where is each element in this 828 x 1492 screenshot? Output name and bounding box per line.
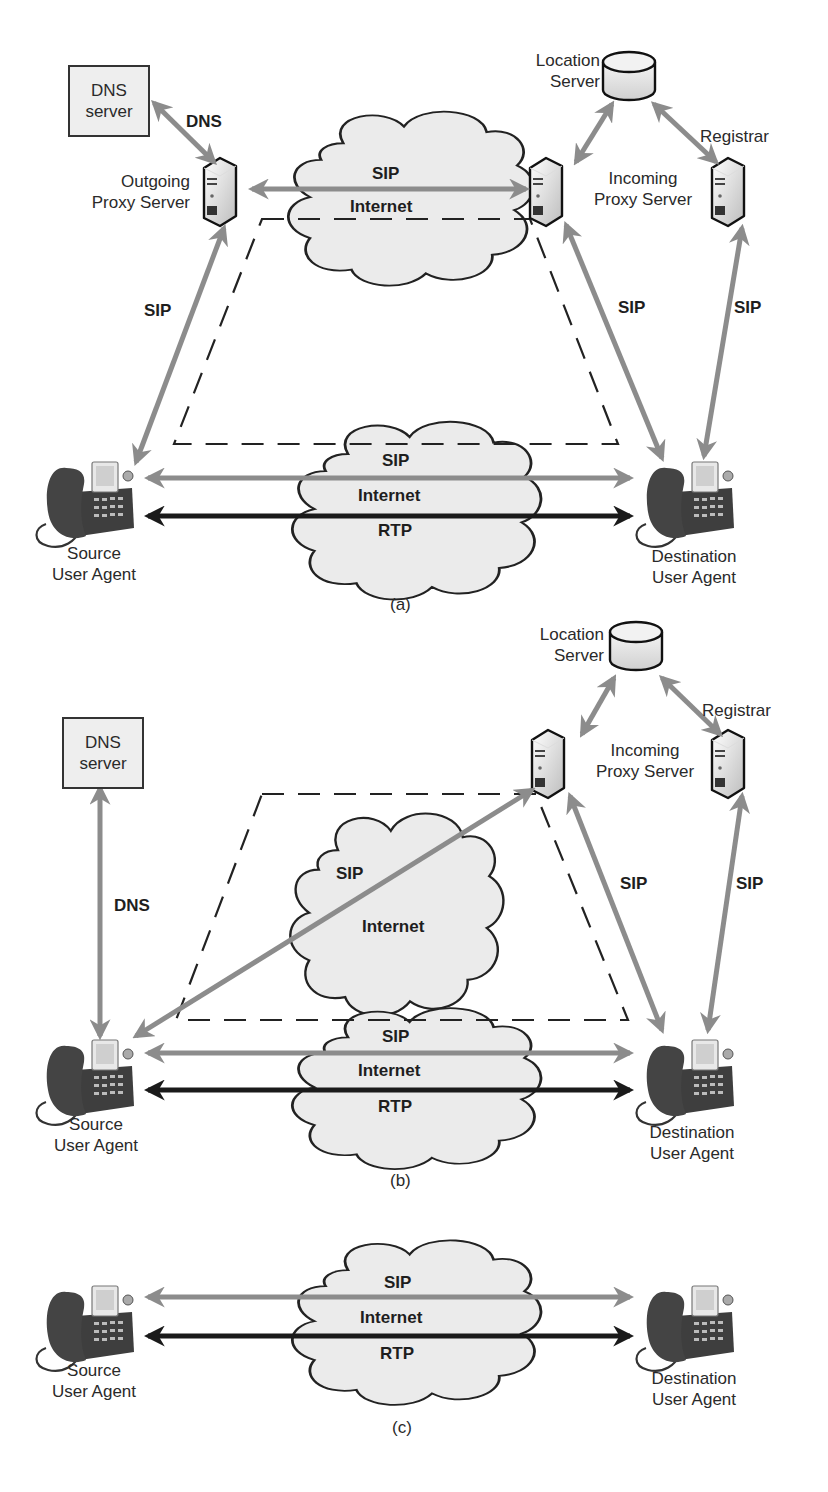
- cloud-sip-label: SIP: [384, 1272, 411, 1293]
- cloud-rtp-label: RTP: [380, 1343, 414, 1364]
- location-server-label: Location Server: [496, 50, 600, 92]
- destination-user-agent-label: Destination User Agent: [630, 1122, 754, 1164]
- bottom-cloud-rtp-label: RTP: [378, 1096, 412, 1117]
- source-user-agent-label: Source User Agent: [38, 1360, 150, 1402]
- bottom-cloud-sip-label: SIP: [382, 1026, 409, 1047]
- bottom-cloud-sip-label: SIP: [382, 450, 409, 471]
- bottom-cloud-rtp-label: RTP: [378, 520, 412, 541]
- caption-c: (c): [392, 1417, 412, 1438]
- destination-user-agent-label: Destination User Agent: [632, 546, 756, 588]
- mid-right-sip-link-label: SIP: [618, 297, 645, 318]
- source-user-agent-label: Source User Agent: [40, 1114, 152, 1156]
- registrar-label: Registrar: [702, 700, 771, 721]
- far-right-sip-link-label: SIP: [736, 873, 763, 894]
- mid-right-sip-link-label: SIP: [620, 873, 647, 894]
- outgoing-proxy-label: Outgoing Proxy Server: [64, 171, 190, 213]
- middle-cloud-internet-label: Internet: [362, 916, 424, 937]
- top-cloud-internet-label: Internet: [350, 196, 412, 217]
- dns-link-label: DNS: [114, 895, 150, 916]
- left-sip-link-label: SIP: [144, 300, 171, 321]
- bottom-cloud-internet-label: Internet: [358, 485, 420, 506]
- incoming-proxy-label: Incoming Proxy Server: [582, 740, 708, 782]
- dns-server-box: DNS server: [68, 65, 150, 137]
- middle-cloud-sip-label: SIP: [336, 863, 363, 884]
- dns-link-label: DNS: [186, 111, 222, 132]
- dns-server-box: DNS server: [62, 717, 144, 789]
- cloud-internet-label: Internet: [360, 1307, 422, 1328]
- caption-a: (a): [390, 594, 411, 615]
- top-cloud-sip-label: SIP: [372, 163, 399, 184]
- source-user-agent-label: Source User Agent: [38, 543, 150, 585]
- location-server-label: Location Server: [500, 624, 604, 666]
- incoming-proxy-label: Incoming Proxy Server: [580, 168, 706, 210]
- caption-b: (b): [390, 1170, 411, 1191]
- registrar-label: Registrar: [700, 126, 769, 147]
- destination-user-agent-label: Destination User Agent: [632, 1368, 756, 1410]
- bottom-cloud-internet-label: Internet: [358, 1060, 420, 1081]
- far-right-sip-link-label: SIP: [734, 297, 761, 318]
